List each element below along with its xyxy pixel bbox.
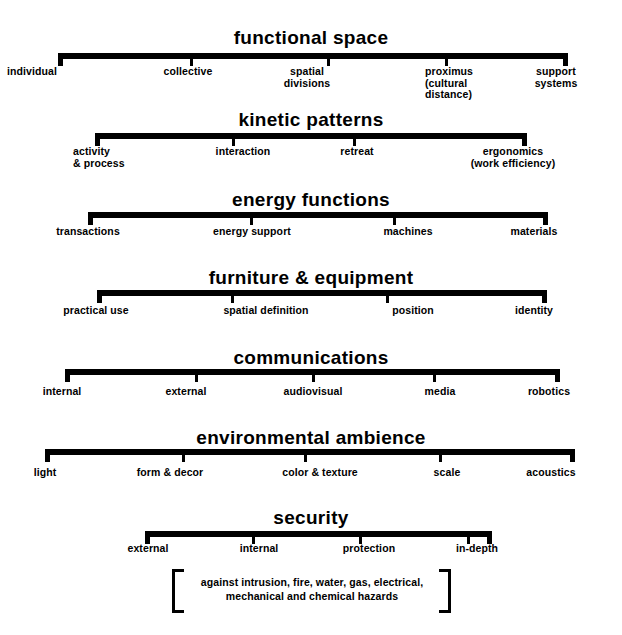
- axis-tick: [439, 451, 442, 462]
- scale-tick-label: support systems: [535, 66, 578, 89]
- scale-tick-label: color & texture: [282, 467, 358, 479]
- scale-axis: [145, 531, 492, 537]
- scale-tick-label: interaction: [216, 146, 271, 158]
- scale-tick-label: acoustics: [526, 467, 575, 479]
- scale-axis: [97, 290, 547, 296]
- axis-tick: [231, 292, 234, 303]
- axis-tick: [393, 214, 396, 225]
- scale-tick-label: external: [127, 543, 168, 555]
- scale-tick-label: practical use: [63, 305, 129, 317]
- scale-tick-label: in-depth: [456, 543, 498, 555]
- scale-tick-label: protection: [343, 543, 395, 555]
- bracket-left: [172, 569, 184, 613]
- scale-tick-label: collective: [164, 66, 213, 78]
- scale-tick-label: transactions: [56, 226, 120, 238]
- axis-endcap-left: [97, 290, 102, 303]
- scale-tick-label: retreat: [340, 146, 373, 158]
- axis-tick: [327, 55, 330, 66]
- scale-tick-label: identity: [515, 305, 553, 317]
- scale-axis: [45, 449, 575, 455]
- scale-title: furniture & equipment: [0, 268, 622, 288]
- design-criteria-scales-diagram: functional spaceindividualcollectivespat…: [0, 0, 622, 635]
- scale-tick-label: scale: [434, 467, 461, 479]
- axis-endcap-left: [45, 449, 50, 462]
- axis-tick: [312, 371, 315, 382]
- axis-endcap-left: [88, 212, 93, 225]
- scale-tick-label: ergonomics (work efficiency): [471, 146, 556, 169]
- scale-tick-label: proximus (cultural distance): [425, 66, 473, 101]
- scale-tick-label: external: [165, 386, 206, 398]
- scale-title: communications: [0, 348, 622, 368]
- axis-endcap-right: [542, 290, 547, 303]
- scale-title: energy functions: [0, 190, 622, 210]
- scale-tick-label: form & decor: [137, 467, 204, 479]
- scale-tick-label: robotics: [528, 386, 570, 398]
- scale-tick-label: light: [34, 467, 57, 479]
- axis-endcap-left: [58, 53, 63, 66]
- scale-tick-label: media: [425, 386, 456, 398]
- axis-tick: [433, 371, 436, 382]
- scale-title: environmental ambience: [0, 428, 622, 448]
- scale-axis: [65, 369, 560, 375]
- axis-tick: [195, 371, 198, 382]
- axis-endcap-left: [65, 369, 70, 382]
- scale-tick-label: energy support: [213, 226, 291, 238]
- bracket-right: [439, 569, 451, 613]
- axis-endcap-right: [543, 212, 548, 225]
- axis-tick: [182, 451, 185, 462]
- scale-axis: [88, 212, 548, 218]
- axis-tick: [386, 292, 389, 303]
- scale-title: functional space: [0, 28, 622, 48]
- security-note-text: against intrusion, fire, water, gas, ele…: [186, 575, 438, 603]
- axis-endcap-right: [555, 369, 560, 382]
- axis-tick: [250, 214, 253, 225]
- scale-tick-label: internal: [240, 543, 279, 555]
- scale-axis: [58, 53, 568, 59]
- axis-tick: [304, 451, 307, 462]
- scale-tick-label: machines: [383, 226, 432, 238]
- scale-tick-label: audiovisual: [284, 386, 343, 398]
- scale-axis: [95, 133, 527, 139]
- scale-tick-label: individual: [7, 66, 57, 78]
- axis-endcap-right: [570, 449, 575, 462]
- scale-tick-label: position: [392, 305, 434, 317]
- scale-tick-label: spatial definition: [223, 305, 308, 317]
- scale-tick-label: materials: [510, 226, 557, 238]
- scale-title: security: [0, 508, 622, 528]
- scale-tick-label: internal: [43, 386, 82, 398]
- scale-tick-label: spatial divisions: [284, 66, 330, 89]
- scale-title: kinetic patterns: [0, 110, 622, 130]
- scale-tick-label: activity & process: [73, 146, 125, 169]
